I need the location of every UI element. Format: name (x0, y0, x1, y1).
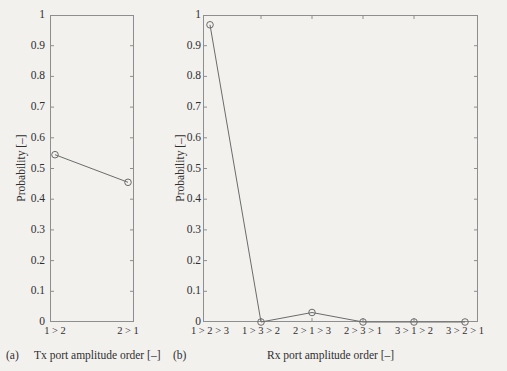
panel-a-caption-tag: (a) (6, 349, 19, 361)
panel-a-series-svg (0, 0, 175, 371)
panel-b-xtick-3: 2 > 3 > 1 (344, 326, 382, 337)
panel-b-xtick-0: 1 > 2 > 3 (191, 326, 229, 337)
panel-b-axis-title: Rx port amplitude order [–] (267, 349, 394, 361)
panel-a-data-point-1 (125, 179, 132, 186)
panel-b-xtick-1: 1 > 3 > 2 (242, 326, 280, 337)
panel-b-xtick-4: 3 > 1 > 2 (395, 326, 433, 337)
panel-a: Probability [–] 1 0.9 0.8 0.7 0.6 0.5 0.… (0, 0, 175, 371)
panel-b-series-svg (175, 0, 507, 371)
panel-b-xtick-5: 3 > 2 > 1 (446, 326, 484, 337)
panel-b-xtick-2: 2 > 1 > 3 (293, 326, 331, 337)
panel-b-caption-tag: (b) (173, 349, 186, 361)
panel-a-xtick-1: 2 > 1 (117, 326, 139, 337)
panel-b: Probability [–] 1 0.9 0.8 0.7 0.6 0.5 0.… (175, 0, 507, 371)
panel-a-data-line (55, 155, 128, 183)
panel-a-axis-title: Tx port amplitude order [–] (34, 349, 160, 361)
figure-two-panel-probability-plots: Probability [–] 1 0.9 0.8 0.7 0.6 0.5 0.… (0, 0, 507, 371)
panel-b-data-line (210, 25, 465, 322)
panel-a-xtick-0: 1 > 2 (44, 326, 66, 337)
